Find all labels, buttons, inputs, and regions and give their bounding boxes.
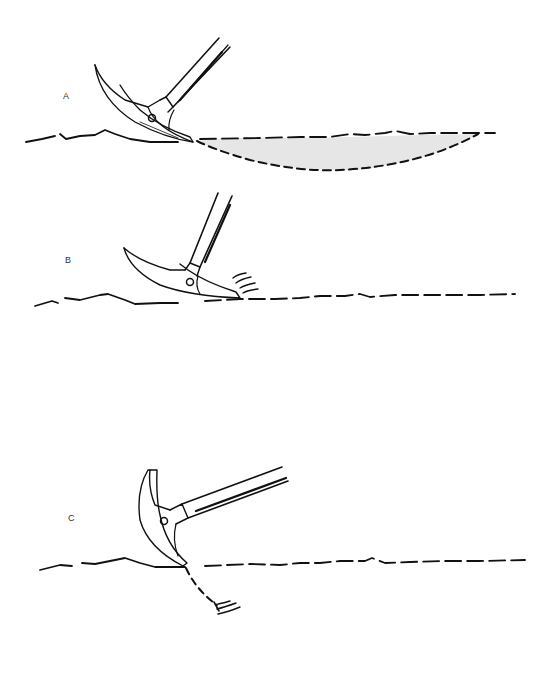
- panel-a-drawing: [26, 38, 495, 170]
- panel-c-drawing: [40, 467, 525, 614]
- figure: A B C: [0, 0, 539, 675]
- panel-b-drawing: [35, 193, 515, 306]
- illustration: [0, 0, 539, 675]
- fracture-lens: [197, 134, 478, 170]
